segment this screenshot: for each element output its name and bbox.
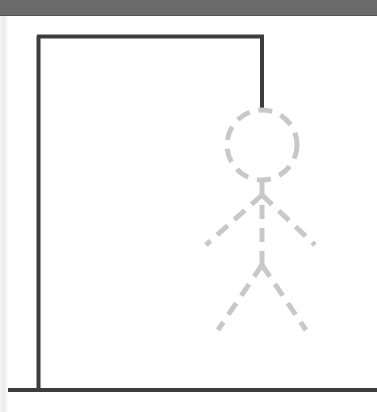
figure-left-arm <box>206 195 262 245</box>
figure-head <box>227 110 297 180</box>
hangman-figure <box>206 110 315 330</box>
figure-right-leg <box>262 265 306 330</box>
hangman-canvas <box>0 0 377 412</box>
figure-left-leg <box>218 265 262 330</box>
gallows <box>8 35 377 390</box>
figure-right-arm <box>262 195 315 245</box>
